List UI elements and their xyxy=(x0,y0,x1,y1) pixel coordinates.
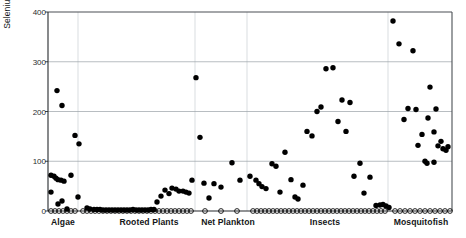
x-axis-category-labels: Algae Rooted Plants Net Plankton Insects… xyxy=(0,0,466,238)
selenium-scatter-figure: Selenium (µg/g, dw) 400 300 200 100 0 Al… xyxy=(0,0,466,238)
x-category-label-mosquitofish: Mosquitofish xyxy=(394,217,449,227)
x-category-label-insects: Insects xyxy=(310,217,340,227)
x-category-label-rooted-plants: Rooted Plants xyxy=(119,217,178,227)
x-category-label-net-plankton: Net Plankton xyxy=(201,217,255,227)
x-category-label-algae: Algae xyxy=(51,217,75,227)
